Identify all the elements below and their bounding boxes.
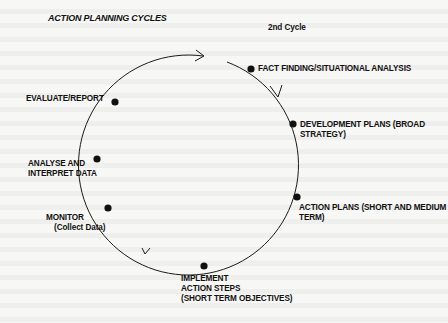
stage-line: ACTION STEPS bbox=[181, 284, 292, 294]
dot-monitor bbox=[104, 204, 111, 211]
stage-evaluate: EVALUATE/REPORT bbox=[26, 94, 104, 104]
stage-fact-finding: FACT FINDING/SITUATIONAL ANALYSIS bbox=[258, 64, 411, 74]
stage-line: (Collect Data) bbox=[46, 223, 105, 233]
dot-implement bbox=[200, 262, 207, 269]
stage-line: IMPLEMENT bbox=[181, 274, 292, 284]
stage-analyse: ANALYSE AND INTERPRET DATA bbox=[28, 159, 97, 179]
dot-fact-finding bbox=[247, 65, 254, 72]
stage-line: TERM) bbox=[299, 213, 446, 223]
stage-action-plans: ACTION PLANS (SHORT AND MEDIUM TERM) bbox=[299, 203, 446, 223]
stage-monitor: MONITOR (Collect Data) bbox=[46, 213, 105, 233]
stage-line: EVALUATE/REPORT bbox=[26, 94, 104, 104]
stage-line: STRATEGY) bbox=[300, 130, 425, 140]
stage-line: FACT FINDING/SITUATIONAL ANALYSIS bbox=[258, 64, 411, 74]
arrow-lower-left-icon bbox=[142, 248, 150, 254]
dot-evaluate bbox=[111, 98, 118, 105]
stage-line: DEVELOPMENT PLANS (BROAD bbox=[300, 120, 425, 130]
cycle-label: 2nd Cycle bbox=[268, 23, 306, 33]
stage-line: ACTION PLANS (SHORT AND MEDIUM bbox=[299, 203, 446, 213]
stage-line: MONITOR bbox=[46, 213, 105, 223]
dot-action-plans bbox=[293, 193, 300, 200]
arrow-right-icon bbox=[270, 85, 282, 97]
stage-line: ANALYSE AND bbox=[28, 159, 97, 169]
diagram-title: ACTION PLANNING CYCLES bbox=[48, 13, 167, 23]
dot-development-plans bbox=[289, 120, 296, 127]
stage-development-plans: DEVELOPMENT PLANS (BROAD STRATEGY) bbox=[300, 120, 425, 140]
stage-line: (SHORT TERM OBJECTIVES) bbox=[181, 294, 292, 304]
cycle-arc-top bbox=[120, 56, 203, 100]
cycle-arc-main bbox=[78, 55, 298, 275]
stage-implement: IMPLEMENT ACTION STEPS (SHORT TERM OBJEC… bbox=[181, 274, 292, 304]
stage-line: INTERPRET DATA bbox=[28, 169, 97, 179]
